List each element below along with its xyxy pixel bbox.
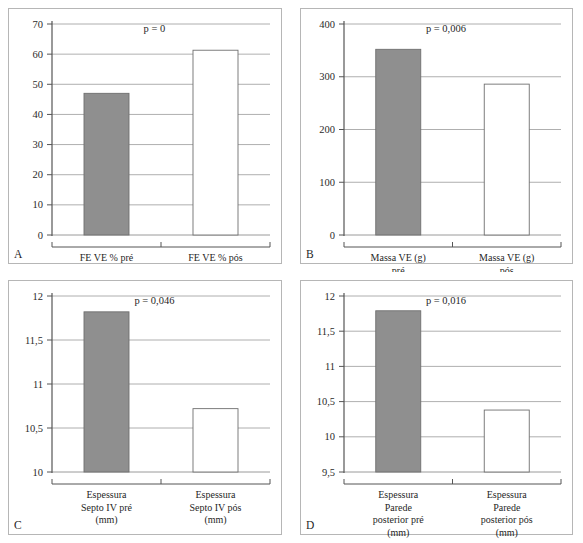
y-tick-label: 11,5: [317, 326, 335, 337]
category-label: posterior pós: [481, 514, 533, 525]
bar: [193, 50, 238, 235]
y-tick-label: 10,5: [317, 396, 335, 407]
y-tick-label: 70: [33, 19, 44, 30]
figure-four-panel-bar-charts: 010203040506070FE VE % préFE VE % pósp =…: [0, 0, 583, 543]
category-label: FE VE % pré: [80, 252, 134, 263]
p-value-annotation: p = 0: [144, 23, 166, 34]
category-label: Espessura: [196, 489, 237, 500]
y-tick-label: 0: [38, 230, 43, 241]
y-tick-label: 10: [33, 199, 44, 210]
y-tick-label: 50: [33, 79, 44, 90]
bar: [484, 84, 529, 235]
panel-c-chart: 1010,51111,512EspessuraSepto IV pré(mm)E…: [0, 272, 292, 543]
category-label: Parede: [493, 502, 521, 513]
panel-b: 0100200300400Massa VE (g)préMassa VE (g)…: [292, 0, 583, 272]
y-tick-label: 300: [319, 71, 335, 82]
y-tick-label: 400: [319, 19, 335, 30]
panel-b-letter: B: [306, 248, 314, 260]
category-label: Massa VE (g): [371, 252, 426, 264]
panel-b-chart: 0100200300400Massa VE (g)préMassa VE (g)…: [292, 0, 583, 272]
p-value-annotation: p = 0,016: [426, 295, 466, 306]
bar: [376, 49, 421, 235]
y-tick-label: 20: [33, 169, 44, 180]
p-value-annotation: p = 0,006: [426, 23, 466, 34]
y-tick-label: 11,5: [25, 335, 43, 346]
panel-c-letter: C: [14, 519, 22, 531]
panel-a-letter: A: [14, 248, 23, 260]
category-label: Septo IV pós: [189, 502, 241, 513]
y-tick-label: 12: [325, 291, 336, 302]
y-tick-label: 11: [325, 361, 335, 372]
panel-d-letter: D: [306, 519, 315, 531]
y-tick-label: 11: [33, 379, 43, 390]
y-tick-label: 10: [33, 467, 44, 478]
category-label: Espessura: [87, 489, 128, 500]
panel-d: 9,51010,51111,512EspessuraParedeposterio…: [292, 272, 583, 543]
category-label: (mm): [95, 514, 117, 526]
p-value-annotation: p = 0,046: [134, 295, 174, 306]
bar: [84, 312, 129, 472]
y-tick-label: 10,5: [25, 423, 43, 434]
category-label: Massa VE (g): [479, 252, 534, 264]
panel-a: 010203040506070FE VE % préFE VE % pósp =…: [0, 0, 292, 272]
category-label: pós: [500, 265, 514, 273]
category-label: pré: [392, 265, 405, 273]
category-label: Parede: [385, 502, 413, 513]
bar: [484, 410, 529, 472]
category-label: Septo IV pré: [81, 502, 132, 513]
bar: [376, 311, 421, 472]
panel-c: 1010,51111,512EspessuraSepto IV pré(mm)E…: [0, 272, 292, 543]
y-tick-label: 100: [319, 177, 335, 188]
panel-d-chart: 9,51010,51111,512EspessuraParedeposterio…: [292, 272, 583, 543]
bar: [193, 409, 238, 472]
category-label: (mm): [496, 527, 518, 539]
y-tick-label: 12: [33, 291, 44, 302]
category-label: FE VE % pós: [188, 252, 243, 263]
y-tick-label: 60: [33, 49, 44, 60]
y-tick-label: 40: [33, 109, 44, 120]
y-tick-label: 30: [33, 139, 44, 150]
category-label: Espessura: [487, 489, 528, 500]
bar: [84, 93, 129, 235]
category-label: (mm): [387, 527, 409, 539]
category-label: (mm): [204, 514, 226, 526]
panel-a-chart: 010203040506070FE VE % préFE VE % pósp =…: [0, 0, 292, 272]
y-tick-label: 200: [319, 124, 335, 135]
y-tick-label: 0: [330, 230, 335, 241]
y-tick-label: 10: [325, 431, 336, 442]
category-label: Espessura: [378, 489, 419, 500]
y-tick-label: 9,5: [322, 467, 335, 478]
category-label: posterior pré: [373, 514, 424, 525]
